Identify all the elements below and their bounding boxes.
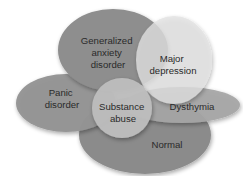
label-dysthymia: Dysthymia <box>170 101 215 112</box>
label-panic-disorder: Panic disorder <box>45 87 80 110</box>
label-normal: Normal <box>152 139 183 150</box>
overlap-diagram: Generalized anxiety disorder Major depre… <box>0 0 243 176</box>
diagram-canvas: Generalized anxiety disorder Major depre… <box>0 0 243 176</box>
